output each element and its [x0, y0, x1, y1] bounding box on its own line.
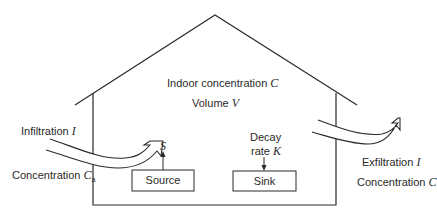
exfiltration-text: Exfiltration	[362, 156, 413, 168]
decay-rate-text: rate	[251, 145, 270, 157]
exfiltration-arrow-icon	[312, 118, 400, 144]
indoor-symbol: C	[270, 76, 278, 90]
volume-label-text: Volume	[192, 97, 229, 109]
decay-symbol: K	[273, 144, 281, 158]
volume-symbol: V	[232, 96, 239, 110]
outdoor-conc-symbol: C	[84, 168, 92, 182]
decay-rate-label: rate K	[251, 145, 281, 157]
outdoor-concentration-label: Concentration Ca	[12, 169, 95, 183]
sink-box-label: Sink	[233, 176, 296, 187]
roof-outline	[75, 15, 357, 105]
exfiltration-label: Exfiltration I	[362, 156, 420, 168]
decay-label: Decay	[250, 132, 281, 143]
volume-label: Volume V	[192, 97, 239, 109]
source-rate-label: S	[160, 140, 166, 152]
source-symbol: S	[160, 139, 166, 153]
exfiltration-conc-text: Concentration	[357, 176, 426, 188]
sink-arrow-head-icon	[262, 165, 267, 171]
outdoor-conc-text: Concentration	[12, 169, 81, 181]
infiltration-label: Infiltration I	[21, 125, 76, 137]
exfiltration-conc-symbol: C	[429, 175, 437, 189]
exfiltration-concentration-label: Concentration C	[357, 176, 437, 188]
infiltration-text: Infiltration	[21, 125, 69, 137]
exfiltration-symbol: I	[416, 155, 420, 169]
outdoor-conc-subscript: a	[92, 176, 96, 183]
infiltration-arrow-icon	[46, 139, 163, 168]
indoor-concentration-label: Indoor concentration C	[167, 77, 278, 89]
infiltration-symbol: I	[72, 124, 76, 138]
source-box-label: Source	[132, 175, 194, 186]
house-walls	[93, 93, 336, 205]
indoor-label-text: Indoor concentration	[167, 77, 267, 89]
